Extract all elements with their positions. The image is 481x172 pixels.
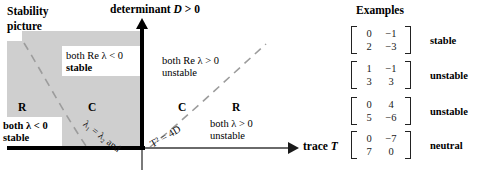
- determinant-axis-condition: > 0: [185, 3, 200, 15]
- matrix-cell: 3: [360, 75, 378, 88]
- example-row-0: 0 −1 2 −3 stable: [336, 25, 456, 55]
- example-row-1: 1 −1 3 3 unstable: [336, 60, 468, 90]
- matrix-cell: 3: [380, 75, 402, 88]
- matrix-cell: 0: [380, 145, 402, 158]
- matrix-cell: 0: [360, 132, 378, 145]
- determinant-axis-label-text: determinant: [110, 3, 171, 15]
- matrix-cell: 7: [360, 145, 378, 158]
- matrix-cell: 0: [360, 27, 378, 40]
- region-lower-left-eigen-type: R: [18, 101, 26, 115]
- example-matrix-0: 0 −1 2 −3: [346, 26, 416, 54]
- region-upper-left-line1: both Re λ < 0: [66, 50, 123, 62]
- region-lower-left-line2: stable: [3, 132, 29, 144]
- matrix-bracket-right: [405, 61, 411, 89]
- examples-heading: Examples: [356, 4, 404, 16]
- examples-panel: Examples 0 −1 2 −3 stable 1 −1 3: [336, 0, 481, 172]
- example-matrix-1: 1 −1 3 3: [346, 61, 416, 89]
- region-upper-left-line2: stable: [66, 62, 92, 74]
- matrix-cell: −6: [380, 111, 402, 124]
- figure-title-line1: Stability: [7, 5, 49, 19]
- trace-axis-arrow: [288, 142, 299, 154]
- example-row-2: 0 4 5 −6 unstable: [336, 96, 468, 126]
- matrix-bracket-right: [405, 26, 411, 54]
- determinant-axis-lower-stub: [141, 149, 143, 170]
- example-row-3: 0 −7 7 0 neutral: [336, 130, 463, 160]
- matrix-cell: 0: [360, 98, 378, 111]
- matrix-cell: 5: [360, 111, 378, 124]
- region-lower-left-line1-text: both λ < 0: [3, 120, 48, 131]
- region-lower-right-line2: unstable: [210, 130, 245, 142]
- determinant-axis-line: [140, 28, 144, 149]
- example-matrix-2: 0 4 5 −6: [346, 97, 416, 125]
- trace-axis-label: trace T: [303, 140, 338, 154]
- matrix-cell: −3: [380, 40, 402, 53]
- figure-title-line2: picture: [7, 20, 42, 34]
- example-verdict-1: unstable: [430, 70, 468, 81]
- matrix-cell: 4: [380, 98, 402, 111]
- region-lower-left-line1: both λ < 0: [3, 120, 48, 132]
- matrix-bracket-right: [405, 97, 411, 125]
- matrix-cell: 2: [360, 40, 378, 53]
- matrix-cell: −7: [380, 132, 402, 145]
- matrix-cell: −1: [380, 27, 402, 40]
- matrix-cell: −1: [380, 62, 402, 75]
- example-matrix-3: 0 −7 7 0: [346, 131, 416, 159]
- trace-axis-label-text: trace: [303, 140, 328, 152]
- matrix-bracket-right: [405, 131, 411, 159]
- example-verdict-3: neutral: [430, 140, 463, 151]
- region-upper-right-line1: both Re λ > 0: [162, 55, 219, 67]
- example-verdict-2: unstable: [430, 106, 468, 117]
- curve-label-right: T² = 4D: [148, 123, 183, 149]
- trace-axis-line-right: [145, 147, 291, 149]
- complex-region-marker-right: C: [178, 101, 186, 115]
- example-verdict-0: stable: [430, 35, 456, 46]
- stability-picture-figure: Stability picture determinant D > 0 trac…: [0, 0, 481, 172]
- determinant-axis-variable: D: [174, 3, 182, 15]
- determinant-axis-label: determinant D > 0: [110, 3, 200, 17]
- complex-region-marker-left: C: [88, 101, 96, 115]
- matrix-cell: 1: [360, 62, 378, 75]
- region-upper-right-line2: unstable: [162, 67, 197, 79]
- trace-axis-line-left: [7, 146, 145, 150]
- region-lower-right-eigen-type: R: [232, 101, 240, 115]
- region-lower-right-line1: both λ > 0: [210, 118, 253, 130]
